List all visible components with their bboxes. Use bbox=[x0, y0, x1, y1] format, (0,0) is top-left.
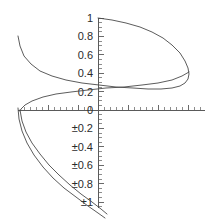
curve-group bbox=[18, 18, 189, 218]
y-axis-group bbox=[99, 18, 105, 208]
y-tick-label-0: 0 bbox=[87, 104, 93, 116]
curve-lower-branch-a bbox=[20, 110, 107, 214]
chart-container: 1 0.8 0.6 0.4 0.2 0 ±0.2 ±0.4 ±0.6 ±0.8 … bbox=[0, 0, 209, 221]
y-tick-label-neg-0-4: ±0.4 bbox=[72, 141, 93, 153]
y-tick-label-neg-0-6: ±0.6 bbox=[72, 159, 93, 171]
y-tick-label-0-4: 0.4 bbox=[78, 67, 93, 79]
parametric-plot: 1 0.8 0.6 0.4 0.2 0 ±0.2 ±0.4 ±0.6 ±0.8 … bbox=[0, 0, 209, 221]
curve-outer-loop-return bbox=[20, 72, 189, 111]
x-axis-minor-ticks bbox=[25, 105, 201, 110]
y-tick-label-neg-0-2: ±0.2 bbox=[72, 122, 93, 134]
y-tick-label-0-6: 0.6 bbox=[78, 49, 93, 61]
curve-outer-loop bbox=[18, 18, 189, 89]
y-axis-minor-ticks bbox=[99, 23, 104, 207]
y-tick-label-neg-0-8: ±0.8 bbox=[72, 178, 93, 190]
y-tick-label-0-8: 0.8 bbox=[78, 30, 93, 42]
x-axis-group bbox=[18, 105, 205, 111]
y-tick-label-1: 1 bbox=[87, 12, 93, 24]
y-tick-label-0-2: 0.2 bbox=[78, 86, 93, 98]
